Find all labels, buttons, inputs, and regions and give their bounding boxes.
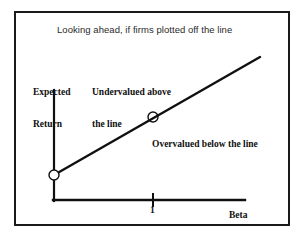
chart-figure: Looking ahead, if firms plotted off the … [0,0,305,240]
x-axis-tick-label: 1 [150,205,155,216]
annotation-undervalued-line1: Undervalued above [92,87,171,98]
x-axis-label: Beta [229,210,247,221]
y-axis-label: Expected Return [33,66,70,151]
marker-risk-free-intercept [49,170,59,180]
y-axis-label-line2: Return [33,119,70,130]
y-axis-label-line1: Expected [33,87,70,98]
annotation-undervalued-line2: the line [92,119,171,130]
annotation-overvalued: Overvalued below the line [152,139,258,150]
chart-title: Looking ahead, if firms plotted off the … [57,25,232,36]
